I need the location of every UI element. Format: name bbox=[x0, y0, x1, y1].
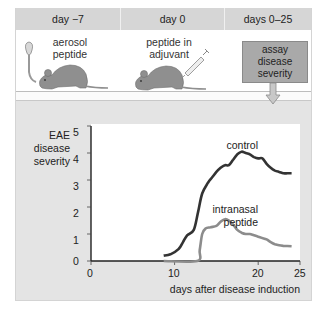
chart-lines: control intranasal peptide bbox=[0, 0, 328, 313]
chart-axes bbox=[87, 126, 300, 265]
intranasal-series-label: intranasal bbox=[212, 203, 258, 215]
control-series-label: control bbox=[226, 139, 258, 151]
intranasal-series-label: peptide bbox=[224, 216, 259, 228]
